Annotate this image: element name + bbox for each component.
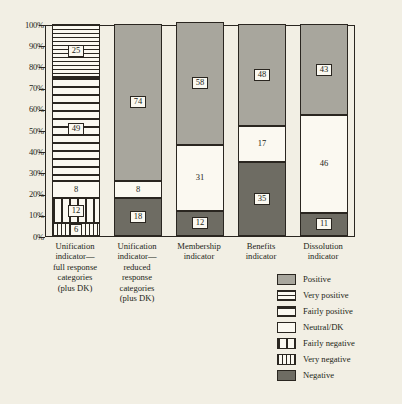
bar-segment-value: 31 [196,173,205,182]
x-axis-label-line: Dissolution [286,241,360,251]
bar-stack[interactable]: 61284925 [52,26,100,236]
bar-segment-value: 6 [70,224,82,236]
legend-item[interactable]: Very positive [277,287,399,303]
legend-swatch-icon [277,306,296,317]
legend-item-label: Very positive [303,291,349,300]
stacked-bar-chart: 100%90%80%70%60%50%40%30%20%10%0% 612849… [0,0,402,404]
x-axis-label-line: reduced [100,262,174,272]
bar-stack[interactable]: 123158 [176,26,224,236]
legend-swatch-icon [277,290,296,301]
bar-segment[interactable]: 58 [176,22,224,145]
legend-item-label: Neutral/DK [303,323,344,332]
bar-segment-value: 43 [316,64,333,76]
legend-item[interactable]: Neutral/DK [277,319,399,335]
bar-segment-value: 74 [130,96,147,108]
bar-segment-value: 58 [192,77,209,89]
bar-segment[interactable]: 12 [52,198,100,223]
y-axis-tick-label: 20% [4,190,44,199]
bar-segment[interactable]: 17 [238,126,286,162]
x-axis-label-line: categories [100,283,174,293]
legend-item-label: Fairly negative [303,339,355,348]
bar-segment-value: 8 [136,185,140,194]
bar-segment[interactable]: 25 [52,24,100,77]
bar-segment[interactable]: 74 [114,24,162,181]
bar-segment[interactable]: 11 [300,213,348,236]
legend-swatch-icon [277,338,296,349]
bar-segment-value: 11 [316,218,332,230]
legend-item[interactable]: Negative [277,367,399,383]
legend-swatch-icon [277,370,296,381]
bar-segment[interactable]: 12 [176,211,224,236]
y-axis-tick-label: 70% [4,84,44,93]
bar-segment-value: 17 [258,139,267,148]
bar-segment-value: 25 [68,45,85,57]
y-axis-tick-label: 90% [4,42,44,51]
y-axis-tick-label: 40% [4,148,44,157]
y-axis-tick-label: 60% [4,105,44,114]
bar-stack[interactable]: 351748 [238,26,286,236]
bar-segment[interactable]: 49 [52,77,100,181]
legend-swatch-icon [277,354,296,365]
bar-segment-value: 8 [74,185,78,194]
bar-stack[interactable]: 114643 [300,26,348,236]
legend-swatch-icon [277,274,296,285]
bar-segment-value: 46 [320,159,329,168]
bar-segment-value: 49 [68,123,85,135]
legend-item-label: Negative [303,371,334,380]
x-axis-category-label: Dissolutionindicator [286,241,360,262]
plot-area: 6128492518874123158351748114643 [45,25,355,237]
y-axis-tick-label: 50% [4,127,44,136]
y-axis-tick-label: 100% [4,21,44,30]
bar-segment[interactable]: 43 [300,24,348,115]
legend-item[interactable]: Fairly negative [277,335,399,351]
legend-item[interactable]: Positive [277,271,399,287]
bar-segment[interactable]: 46 [300,115,348,213]
bar-segment[interactable]: 18 [114,198,162,236]
bar-segment[interactable]: 8 [114,181,162,198]
y-axis-tick-label: 80% [4,63,44,72]
bar-segment-value: 48 [254,69,271,81]
legend-swatch-icon [277,322,296,333]
legend-item-label: Fairly positive [303,307,353,316]
y-axis-tick-mark [39,237,45,238]
bar-segment[interactable]: 8 [52,181,100,198]
x-axis-label-line: indicator [286,251,360,261]
legend-item[interactable]: Very negative [277,351,399,367]
legend-item-label: Positive [303,275,331,284]
x-axis-label-line: (plus DK) [100,293,174,303]
bar-stack[interactable]: 18874 [114,26,162,236]
legend-item-label: Very negative [303,355,350,364]
bar-segment-value: 12 [68,205,85,217]
bar-segment[interactable]: 35 [238,162,286,236]
bar-segment-value: 12 [192,217,209,229]
y-axis-tick-label: 30% [4,169,44,178]
bar-segment[interactable]: 48 [238,24,286,126]
x-axis-label-line: response [100,272,174,282]
y-axis-tick-label: 10% [4,211,44,220]
bar-segment[interactable]: 6 [52,223,100,236]
bar-segment-value: 18 [130,211,147,223]
legend: PositiveVery positiveFairly positiveNeut… [277,271,399,383]
bar-segment-value: 35 [254,193,271,205]
y-axis-tick-label: 0% [4,233,44,242]
legend-item[interactable]: Fairly positive [277,303,399,319]
bar-segment[interactable]: 31 [176,145,224,211]
